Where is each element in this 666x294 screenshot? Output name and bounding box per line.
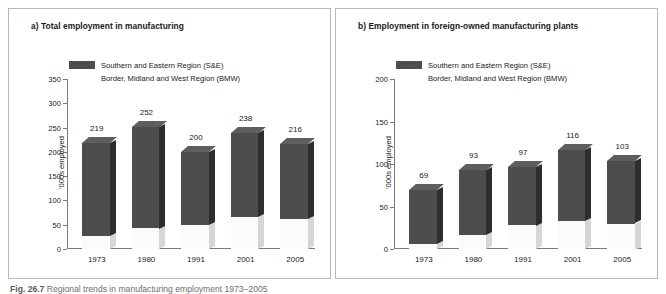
bar-b-2001[interactable] — [558, 150, 586, 249]
bar-segment-se — [607, 161, 635, 223]
bar-front-face — [82, 236, 110, 249]
legend-swatch-se-icon — [396, 61, 422, 69]
bar-a-1980[interactable] — [132, 127, 160, 249]
bar-a-1991[interactable] — [181, 152, 209, 249]
bar-front-face — [607, 161, 635, 223]
bar-front-face — [409, 190, 437, 244]
bar-b-1991[interactable] — [508, 167, 536, 249]
y-tick-a-0 — [63, 249, 67, 250]
legend-label-se: Southern and Eastern Region (S&E) — [101, 61, 223, 70]
bar-value-label-2005: 103 — [616, 142, 629, 151]
bar-segment-bmw — [558, 221, 586, 249]
y-tick-label-a-350: 350 — [48, 75, 61, 84]
bar-segment-se — [181, 152, 209, 225]
bar-side-face — [209, 149, 215, 225]
bar-front-face — [280, 144, 308, 219]
x-tick-label-2001: 2001 — [564, 255, 582, 264]
bar-front-face — [181, 225, 209, 249]
bar-segment-bmw — [459, 235, 487, 249]
y-tick-label-a-50: 50 — [53, 220, 61, 229]
bar-b-2005[interactable] — [607, 161, 635, 249]
panel-b-y-axis-label: '000s employed — [384, 123, 393, 203]
bar-segment-bmw — [231, 217, 259, 249]
y-tick-label-b-50: 50 — [380, 202, 388, 211]
bar-side-face — [258, 215, 264, 249]
y-tick-b-50 — [390, 207, 394, 208]
panel-b-y-axis — [394, 79, 395, 249]
bar-side-face — [308, 216, 314, 249]
panel-a-y-axis — [67, 79, 68, 249]
bar-value-label-2001: 238 — [239, 114, 252, 123]
x-tick-label-1973: 1973 — [88, 255, 106, 264]
bar-a-1973[interactable] — [82, 143, 110, 249]
bar-b-1973[interactable] — [409, 190, 437, 249]
bar-value-label-1973: 69 — [419, 171, 428, 180]
bar-side-face — [308, 141, 314, 219]
bar-side-face — [536, 222, 542, 249]
bar-segment-bmw — [132, 228, 160, 249]
chart-panel-a: a) Total employment in manufacturing Sou… — [8, 8, 331, 279]
bar-segment-se — [82, 143, 110, 236]
bar-front-face — [132, 228, 160, 249]
panel-b-title: b) Employment in foreign-owned manufactu… — [358, 21, 578, 31]
chart-panel-b: b) Employment in foreign-owned manufactu… — [335, 8, 658, 279]
bar-segment-se — [280, 144, 308, 219]
x-tick-label-1991: 1991 — [514, 255, 532, 264]
bar-value-label-1991: 200 — [189, 133, 202, 142]
bar-side-face — [159, 124, 165, 228]
bar-front-face — [459, 235, 487, 249]
bar-side-face — [585, 147, 591, 220]
bar-segment-se — [459, 170, 487, 235]
bar-segment-bmw — [181, 225, 209, 249]
y-tick-label-b-0: 0 — [384, 245, 388, 254]
bar-side-face — [209, 222, 215, 249]
x-tick-label-2005: 2005 — [286, 255, 304, 264]
bar-side-face — [536, 164, 542, 226]
bar-front-face — [607, 224, 635, 250]
bar-front-face — [181, 152, 209, 225]
bar-segment-bmw — [82, 236, 110, 249]
x-tick-label-1973: 1973 — [415, 255, 433, 264]
legend-entry-se: Southern and Eastern Region (S&E) — [69, 59, 240, 71]
x-tick-label-2005: 2005 — [613, 255, 631, 264]
y-tick-label-b-200: 200 — [375, 75, 388, 84]
bar-side-face — [486, 167, 492, 235]
bar-front-face — [459, 170, 487, 235]
bar-a-2001[interactable] — [231, 133, 259, 249]
bar-segment-se — [409, 190, 437, 244]
y-tick-a-350 — [63, 79, 67, 80]
y-tick-b-0 — [390, 249, 394, 250]
panel-b-plot-area: 0501001502006919739319809719911162001103… — [394, 79, 642, 249]
x-tick-label-2001: 2001 — [237, 255, 255, 264]
bar-side-face — [635, 159, 641, 224]
legend-entry-se: Southern and Eastern Region (S&E) — [396, 59, 567, 71]
bar-front-face — [508, 225, 536, 249]
bar-side-face — [110, 140, 116, 236]
figure-caption-text: Regional trends in manufacturing employm… — [47, 284, 268, 294]
bar-a-2005[interactable] — [280, 144, 308, 249]
bar-value-label-2001: 116 — [566, 131, 579, 140]
bar-value-label-1980: 93 — [469, 151, 478, 160]
bar-segment-bmw — [508, 225, 536, 249]
bar-value-label-1980: 252 — [140, 108, 153, 117]
bar-segment-bmw — [409, 244, 437, 249]
bar-front-face — [558, 150, 586, 221]
bar-segment-se — [132, 127, 160, 229]
bar-front-face — [508, 167, 536, 226]
bar-front-face — [409, 244, 437, 249]
bar-side-face — [258, 130, 264, 217]
bar-segment-se — [231, 133, 259, 217]
legend-label-se: Southern and Eastern Region (S&E) — [428, 61, 550, 70]
y-tick-label-a-0: 0 — [57, 245, 61, 254]
bar-value-label-1973: 219 — [90, 124, 103, 133]
bar-value-label-2005: 216 — [289, 125, 302, 134]
bar-front-face — [231, 217, 259, 249]
bar-b-1980[interactable] — [459, 170, 487, 249]
y-tick-a-50 — [63, 225, 67, 226]
x-tick-label-1980: 1980 — [464, 255, 482, 264]
bar-segment-bmw — [607, 224, 635, 250]
bar-front-face — [558, 221, 586, 249]
bar-segment-se — [508, 167, 536, 226]
bar-segment-bmw — [280, 219, 308, 249]
